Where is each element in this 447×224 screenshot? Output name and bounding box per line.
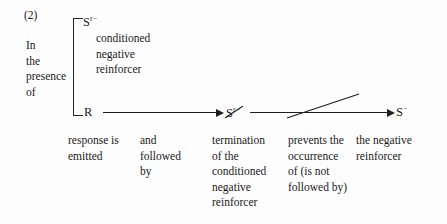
presence-line-4: of [26,85,66,101]
symbol-superscript: − [403,104,408,113]
symbol-base: S [83,15,90,29]
negative-reinforcer-symbol: S− [396,104,407,120]
caption-line: emitted [68,149,119,165]
caption-column-prevents: prevents the occurrence of (is not follo… [288,133,347,195]
caption-line: response is [68,133,119,149]
grouping-bracket [73,18,83,116]
response-symbol: R [84,105,92,120]
caption-line: occurrence [288,149,347,165]
descriptor-line-2: negative [96,47,150,63]
caption-line: reinforcer [356,149,412,165]
caption-line: conditioned [212,164,266,180]
caption-line: by [140,164,181,180]
arrow-shaft [103,112,217,113]
symbol-superscript: r− [233,105,240,114]
figure-item-number: (2) [24,8,37,23]
caption-line: the negative [356,133,412,149]
presence-line-1: In [26,38,66,54]
symbol-base: R [84,105,92,119]
arrow-termination-prevents-negative-reinforcer [250,108,396,117]
descriptor-line-1: conditioned [96,31,150,47]
caption-line: of the [212,149,266,165]
symbol-base: S [396,105,403,119]
caption-line: followed [140,149,181,165]
arrow-head-icon [216,109,224,117]
caption-line: reinforcer [212,195,266,211]
presence-line-3: presence [26,69,66,85]
termination-of-conditioned-negative-reinforcer-symbol: Sr− [226,105,240,121]
caption-line: termination [212,133,266,149]
conditioned-negative-reinforcer-symbol: Sr− [83,14,97,30]
presence-line-2: the [26,54,66,70]
caption-column-response: response is emitted [68,133,119,164]
arrow-response-to-termination [103,108,225,117]
arrow-shaft [250,112,388,113]
symbol-base: S [226,106,233,120]
arrow-head-icon [387,109,395,117]
caption-line: followed by) [288,180,347,196]
caption-column-negative-reinforcer: the negative reinforcer [356,133,412,164]
contingency-diagram-figure: (2) In the presence of Sr− conditioned n… [0,0,447,224]
caption-line: negative [212,180,266,196]
caption-line: prevents the [288,133,347,149]
conditioned-negative-reinforcer-descriptor: conditioned negative reinforcer [96,31,150,78]
presence-phrase: In the presence of [26,38,66,100]
symbol-superscript: r− [90,14,97,23]
caption-column-termination: termination of the conditioned negative … [212,133,266,211]
descriptor-line-3: reinforcer [96,62,150,78]
caption-line: and [140,133,181,149]
struck-symbol-group: Sr− [226,105,240,121]
caption-column-and-followed-by: and followed by [140,133,181,180]
caption-line: of (is not [288,164,347,180]
